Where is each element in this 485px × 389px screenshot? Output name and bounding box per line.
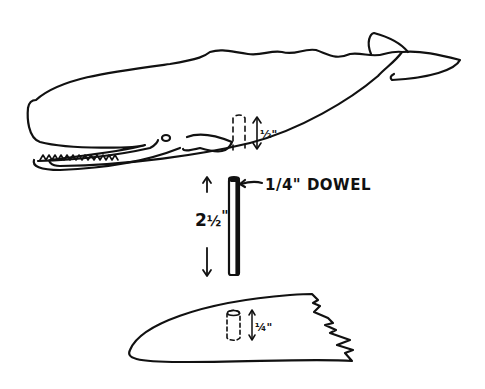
dowel-label: 1/4" DOWEL: [265, 176, 371, 194]
dowel-length-label: 2½": [195, 207, 229, 230]
base-hole-depth-label: ¼": [255, 321, 272, 334]
wave-base-outline: [129, 294, 353, 362]
dowel-label-pointer: [241, 182, 262, 184]
dowel-length-whole: 2: [195, 210, 207, 230]
wave-base-figure: [129, 294, 353, 362]
whale-tail-fluke-lower: [391, 52, 460, 80]
whale-body-outline: [28, 50, 402, 166]
whale-eye: [162, 135, 170, 141]
whale-tail-fluke-upper: [369, 33, 408, 54]
whale-figure: [28, 33, 460, 170]
dowel-length-inch-mark: ": [221, 207, 228, 223]
whale-hole-depth-label: ½": [260, 128, 277, 141]
dowel-length-fraction: ½: [207, 213, 222, 229]
whale-stand-diagram: ½" 1/4" DOWEL 2½" ¼": [0, 0, 485, 389]
